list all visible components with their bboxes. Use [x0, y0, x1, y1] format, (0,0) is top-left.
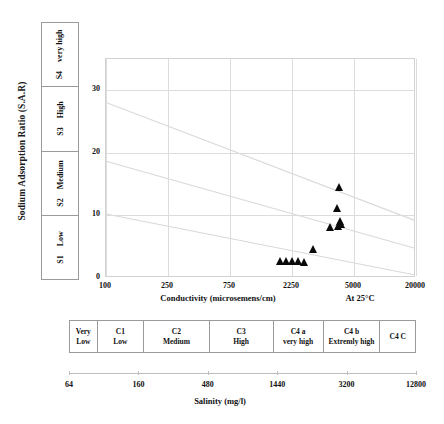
sar-class-code: S1	[55, 255, 64, 263]
salinity-class-cell: VeryLow	[70, 321, 98, 352]
salinity-class-label: Medium	[163, 337, 190, 346]
data-point-marker	[335, 183, 343, 191]
sar-class-code: S3	[55, 128, 64, 136]
salinity-tick-mark	[277, 371, 278, 375]
x-tick-label: 2250	[261, 281, 321, 290]
gridline-horizontal-30	[106, 90, 414, 91]
salinity-tick-mark	[69, 371, 70, 375]
salinity-axis-title: Salinity (mg/l)	[120, 396, 320, 406]
data-point-marker	[326, 223, 334, 231]
boundary-line	[106, 161, 414, 248]
sar-class-label: Low	[55, 231, 64, 246]
data-point-marker	[309, 245, 317, 253]
boundary-line	[106, 214, 414, 275]
y-tick-label: 20	[78, 147, 100, 156]
gridline-vertical-250	[168, 59, 169, 276]
y-tick-label: 0	[78, 272, 100, 281]
gridline-vertical-5000	[354, 59, 355, 276]
x-axis-title: Conductivity (microsemens/cm)	[108, 293, 328, 303]
sar-class-row-s2: S2Medium	[42, 152, 78, 216]
gridline-horizontal-20	[106, 153, 414, 154]
gridline-horizontal-10	[106, 215, 414, 216]
sar-class-code: S4	[56, 71, 65, 79]
sar-class-row-s3: S3High	[42, 87, 78, 151]
gridline-vertical-2250	[292, 59, 293, 276]
sar-class-row-s1: S1Low	[42, 216, 78, 279]
x-tick-label: 100	[75, 281, 135, 290]
sar-class-row-s4: S4very high	[42, 23, 78, 87]
salinity-tick-mark	[138, 371, 139, 375]
salinity-class-label: Extremly high	[329, 337, 375, 346]
sar-class-label: very high	[56, 30, 65, 62]
boundary-line	[106, 102, 414, 220]
salinity-tick-label: 3200	[317, 380, 377, 389]
salinity-tick-label: 12800	[386, 380, 444, 389]
sar-class-label: Medium	[56, 160, 65, 189]
y-axis-title: Sodium Adsorption Ratio (S.A.R)	[17, 51, 27, 251]
x-tick-label: 750	[199, 281, 259, 290]
x-tick-label: 5000	[323, 281, 383, 290]
salinity-class-code: C4 C	[389, 332, 405, 341]
salinity-class-code: C1	[116, 327, 125, 336]
salinity-tick-label: 1440	[247, 380, 307, 389]
salinity-class-cell: C4 avery high	[274, 321, 324, 352]
salinity-class-code: C2	[172, 327, 181, 336]
salinity-classification-table: VeryLowC1LowC2MediumC3HighC4 avery highC…	[69, 320, 416, 353]
salinity-class-cell: C1Low	[98, 321, 145, 352]
gridline-vertical-100	[106, 59, 107, 276]
data-point-marker	[300, 258, 308, 266]
salinity-class-cell: C2Medium	[144, 321, 210, 352]
salinity-class-code: C4 a	[291, 327, 306, 336]
salinity-class-code: C4 b	[344, 327, 359, 336]
salinity-tick-mark	[416, 371, 417, 375]
salinity-tick-label: 64	[39, 380, 99, 389]
salinity-class-cell: C3High	[210, 321, 274, 352]
salinity-class-code: C3	[237, 327, 246, 336]
sar-class-code: S2	[56, 198, 65, 206]
salinity-class-label: Low	[113, 337, 127, 346]
data-point-marker	[337, 220, 345, 228]
sar-class-label: High	[55, 102, 64, 119]
y-tick-label: 30	[78, 84, 100, 93]
salinity-class-cell: C4 C	[380, 321, 415, 352]
x-axis-temperature-note: At 25°C	[320, 293, 400, 303]
gridline-vertical-750	[230, 59, 231, 276]
salinity-class-label: High	[233, 337, 249, 346]
x-tick-label: 250	[137, 281, 197, 290]
sar-classification-box: S4very highS3HighS2MediumS1Low	[41, 22, 79, 280]
salinity-class-label: Low	[76, 337, 90, 346]
salinity-axis-line	[69, 373, 416, 374]
data-point-marker	[333, 204, 341, 212]
salinity-class-cell: C4 bExtremly high	[324, 321, 381, 352]
salinity-tick-label: 160	[108, 380, 168, 389]
salinity-class-label: very high	[283, 337, 313, 346]
salinity-tick-label: 480	[178, 380, 238, 389]
y-tick-label: 10	[78, 209, 100, 218]
x-tick-label: 20000	[385, 281, 444, 290]
chart-canvas: Sodium Adsorption Ratio (S.A.R) S4very h…	[0, 0, 444, 424]
plot-area	[105, 58, 415, 277]
salinity-tick-mark	[208, 371, 209, 375]
gridline-vertical-20000	[416, 59, 417, 276]
sar-boundary-lines	[106, 59, 414, 276]
salinity-tick-mark	[347, 371, 348, 375]
salinity-class-code: Very	[76, 327, 91, 336]
